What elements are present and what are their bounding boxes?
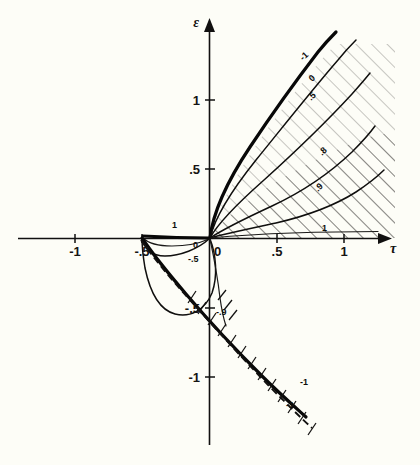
curve-label-upper--1: -1 <box>298 50 311 63</box>
upper-hatched-region <box>205 30 405 245</box>
curve-axis-left-heavy <box>143 236 209 238</box>
x-tick-label-0.5: .5 <box>272 244 283 259</box>
curve-label-lower-0: 0 <box>193 240 198 250</box>
x-tick-label-1: 1 <box>340 244 347 259</box>
curve-label-upper-1: 1 <box>322 223 327 233</box>
y-axis-arrowhead <box>204 18 215 32</box>
y-tick-label-0.5: .5 <box>189 162 200 177</box>
y-tick-label--0.5: -.5 <box>185 301 200 316</box>
plot-canvas: -1 -.5 .5 1 1 .5 -.5 -1 0 ε τ -1 0 .5 .8… <box>0 0 420 465</box>
x-tick-label--1: -1 <box>69 244 81 259</box>
curve-label-band--1-lower: -1 <box>286 400 294 410</box>
curve-label-band--1-upper: -1 <box>300 377 308 387</box>
x-tick-label--0.5: -.5 <box>134 244 149 259</box>
curve-label-lower--0.5: -.5 <box>188 254 199 264</box>
x-axis-label-tau: τ <box>390 241 397 256</box>
y-tick-label-1: 1 <box>193 93 200 108</box>
curve-label-lower--0.9: -.9 <box>216 307 227 317</box>
origin-label: 0 <box>214 244 221 259</box>
curve-label-left-1: 1 <box>172 220 177 230</box>
y-axis-label-epsilon: ε <box>193 15 199 30</box>
y-tick-label--1: -1 <box>188 370 200 385</box>
figure-root: -1 -.5 .5 1 1 .5 -.5 -1 0 ε τ -1 0 .5 .8… <box>0 0 420 465</box>
